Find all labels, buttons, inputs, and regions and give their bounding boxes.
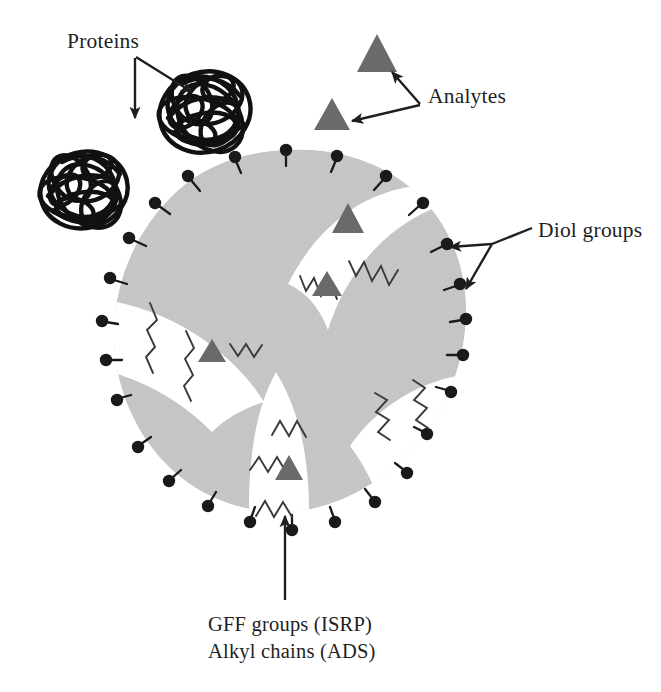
diol-dot xyxy=(104,272,116,284)
diol-dot xyxy=(280,144,292,156)
diol-dot xyxy=(421,428,433,440)
diol-dot xyxy=(460,313,472,325)
diol-dot xyxy=(202,500,214,512)
diol-dot xyxy=(445,386,457,398)
free-analyte-layer xyxy=(314,34,397,130)
figure-root: Proteins Analytes Diol groups GFF groups… xyxy=(0,0,661,692)
diol-dot xyxy=(96,315,108,327)
diol-dot xyxy=(329,516,341,528)
alkyl-chains-label: Alkyl chains (ADS) xyxy=(208,640,376,663)
proteins-label: Proteins xyxy=(67,29,139,53)
analyte-triangle xyxy=(314,98,350,130)
diol-dot xyxy=(100,354,112,366)
diol-dot xyxy=(111,394,123,406)
ram-particle xyxy=(72,144,514,552)
analyte-triangle xyxy=(357,34,397,72)
diol-dot xyxy=(123,232,135,244)
diol-dot xyxy=(182,170,194,182)
diol-arrow-lower xyxy=(466,244,492,289)
diol-dot xyxy=(244,516,256,528)
diol-dot xyxy=(229,151,241,163)
diol-dot xyxy=(380,170,392,182)
diol-dot xyxy=(331,150,343,162)
diol-leader xyxy=(492,228,532,244)
diol-dot xyxy=(401,467,413,479)
diol-groups-label: Diol groups xyxy=(538,218,642,242)
analytes-label: Analytes xyxy=(428,84,506,108)
ram-particle-diagram: Proteins Analytes Diol groups GFF groups… xyxy=(0,0,661,692)
diol-dot xyxy=(441,238,453,250)
diol-dot xyxy=(163,475,175,487)
diol-dot xyxy=(132,441,144,453)
diol-dot xyxy=(369,496,381,508)
diol-dot xyxy=(417,197,429,209)
diol-dot xyxy=(457,349,469,361)
diol-dot xyxy=(149,197,161,209)
gff-groups-label: GFF groups (ISRP) xyxy=(208,613,372,636)
diol-dot xyxy=(286,524,298,536)
analytes-arrow-lower xyxy=(352,105,420,121)
protein-scribble xyxy=(32,142,136,240)
diol-arrow-upper xyxy=(450,244,492,247)
diol-dot xyxy=(454,278,466,290)
particle-body xyxy=(72,149,514,552)
analytes-arrow-upper xyxy=(392,72,420,104)
